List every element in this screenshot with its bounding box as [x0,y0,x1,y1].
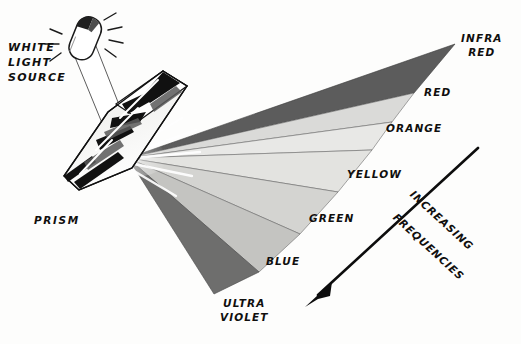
label-band-orange: ORANGE [386,122,442,135]
label-band-blue: BLUE [266,255,300,268]
label-white-light-source: WHITE LIGHT SOURCE [8,40,66,86]
label-band-red: RED [424,86,451,99]
label-band-yellow: YELLOW [347,168,402,181]
diagram-artwork [0,0,521,344]
label-band-infra-red: INFRA RED [461,32,503,59]
label-band-green: GREEN [309,212,354,225]
label-prism: PRISM [34,214,80,227]
prism-spectrum-diagram: WHITE LIGHT SOURCE PRISM INFRA RED RED O… [0,0,521,344]
label-band-ultra-violet: ULTRA VIOLET [220,297,269,324]
